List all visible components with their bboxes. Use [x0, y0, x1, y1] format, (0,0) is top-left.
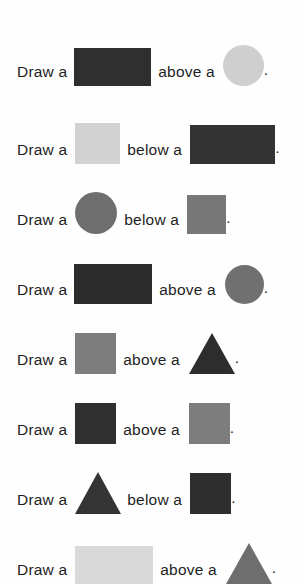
row-period: . [272, 559, 276, 584]
row-lead-text: Draw a [0, 142, 67, 165]
subject-rectangle [75, 546, 153, 584]
object-square [190, 473, 231, 514]
object-rectangle [190, 125, 275, 164]
instruction-row: Draw aabove a. [0, 232, 305, 304]
subject-square [75, 333, 116, 374]
row-period: . [231, 489, 235, 514]
instruction-row: Draw aabove a. [0, 14, 305, 86]
row-relation-text: above a [160, 562, 217, 584]
row-period: . [235, 349, 239, 374]
instruction-row: Draw abelow a. [0, 442, 305, 514]
object-circle [223, 45, 264, 86]
subject-rectangle [74, 264, 152, 304]
row-lead-text: Draw a [0, 212, 67, 235]
row-period: . [230, 419, 234, 444]
subject-square [75, 403, 116, 444]
row-period: . [275, 139, 279, 164]
instruction-row: Draw abelow a. [0, 92, 305, 164]
row-lead-text: Draw a [0, 422, 67, 445]
object-circle [225, 265, 264, 304]
subject-square [75, 123, 120, 164]
row-relation-text: below a [124, 212, 179, 235]
row-period: . [264, 279, 268, 304]
row-lead-text: Draw a [0, 64, 67, 87]
row-relation-text: above a [158, 64, 215, 87]
row-lead-text: Draw a [0, 492, 67, 515]
object-triangle [226, 543, 272, 584]
subject-circle [75, 192, 117, 234]
row-lead-text: Draw a [0, 562, 67, 584]
instruction-row: Draw aabove a. [0, 302, 305, 374]
object-triangle [189, 333, 235, 374]
row-period: . [264, 61, 268, 86]
object-square [187, 195, 226, 234]
row-relation-text: below a [127, 142, 182, 165]
object-square [189, 403, 230, 444]
subject-rectangle [74, 48, 151, 86]
row-lead-text: Draw a [0, 352, 67, 375]
row-relation-text: above a [159, 282, 216, 305]
row-period: . [226, 209, 230, 234]
row-lead-text: Draw a [0, 282, 67, 305]
instruction-row: Draw aabove a. [0, 512, 305, 584]
instruction-row: Draw abelow a. [0, 162, 305, 234]
subject-triangle [75, 472, 121, 514]
instruction-row: Draw aabove a. [0, 372, 305, 444]
row-relation-text: below a [127, 492, 182, 515]
row-relation-text: above a [123, 352, 180, 375]
row-relation-text: above a [123, 422, 180, 445]
